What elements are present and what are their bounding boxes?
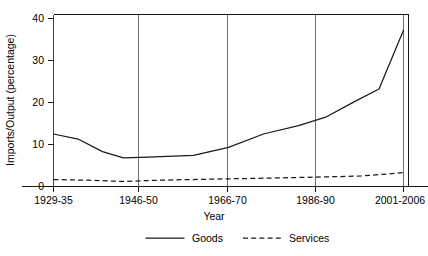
x-tick-label-1986-90: 1986-90 bbox=[296, 194, 335, 206]
series-line-goods bbox=[54, 30, 404, 158]
vertical-gridlines bbox=[54, 15, 404, 187]
series-line-services bbox=[54, 173, 404, 182]
y-tick-label-0: 0 bbox=[38, 180, 44, 192]
chart-legend: Goods Services bbox=[146, 232, 329, 244]
legend-label-goods: Goods bbox=[192, 232, 223, 244]
y-axis-ticks bbox=[48, 19, 54, 187]
y-tick-label-20: 20 bbox=[32, 96, 44, 108]
line-chart: 0 10 20 30 40 1929-35 1946-50 1966-70 19… bbox=[0, 0, 428, 256]
x-axis-title: Year bbox=[203, 210, 225, 222]
y-axis-title: Imports/Output (percentage) bbox=[4, 34, 16, 166]
legend-label-services: Services bbox=[289, 232, 329, 244]
x-axis-tick-labels: 1929-35 1946-50 1966-70 1986-90 2001-200… bbox=[34, 194, 425, 206]
x-tick-label-1946-50: 1946-50 bbox=[119, 194, 158, 206]
x-tick-label-2001-2006: 2001-2006 bbox=[375, 194, 425, 206]
plot-frame bbox=[54, 15, 409, 187]
y-tick-label-30: 30 bbox=[32, 54, 44, 66]
x-tick-label-1929-35: 1929-35 bbox=[34, 194, 73, 206]
y-tick-label-40: 40 bbox=[32, 12, 44, 24]
y-axis-tick-labels: 0 10 20 30 40 bbox=[32, 12, 44, 192]
chart-container: 0 10 20 30 40 1929-35 1946-50 1966-70 19… bbox=[0, 0, 428, 256]
x-axis-ticks bbox=[54, 187, 404, 193]
series-group bbox=[54, 30, 404, 181]
y-tick-label-10: 10 bbox=[32, 138, 44, 150]
x-tick-label-1966-70: 1966-70 bbox=[208, 194, 247, 206]
